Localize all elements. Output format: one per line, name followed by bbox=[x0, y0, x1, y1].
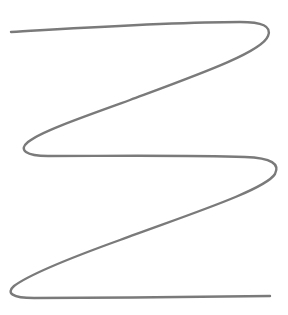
serpentine-line-drawing bbox=[0, 0, 288, 315]
zigzag-line bbox=[11, 22, 277, 298]
drawing-canvas bbox=[0, 0, 288, 315]
